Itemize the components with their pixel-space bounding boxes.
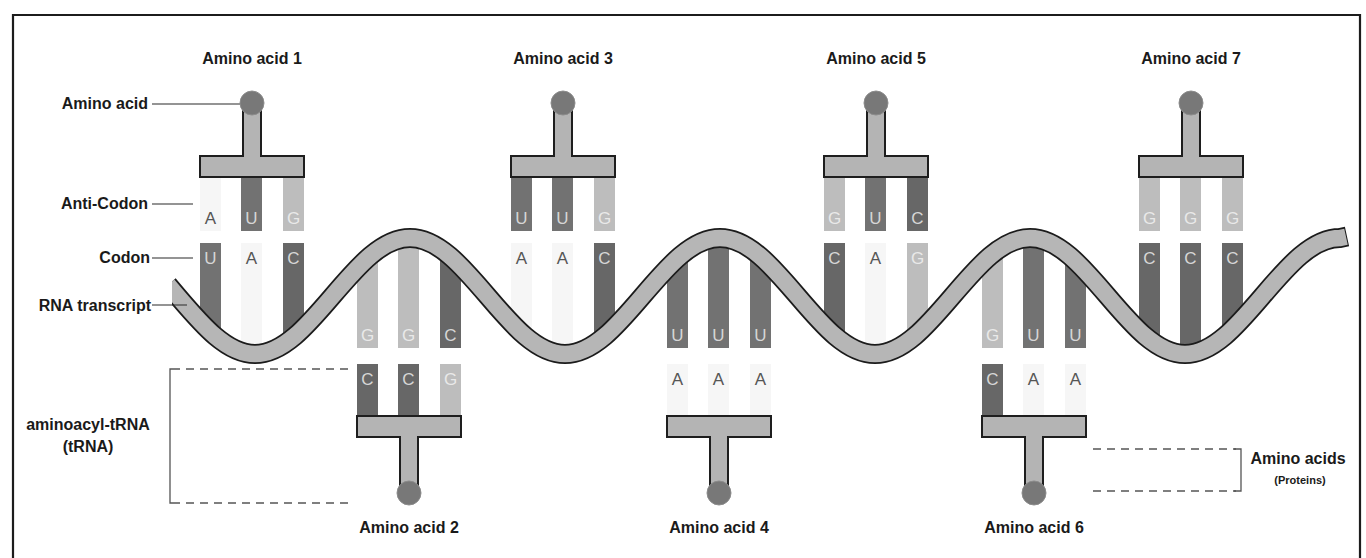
anticodon-letter: U bbox=[245, 209, 257, 228]
trna-body bbox=[824, 108, 928, 177]
codon-letter: G bbox=[911, 249, 924, 268]
amino-acid-ball bbox=[397, 481, 421, 505]
anticodon-letter: U bbox=[869, 209, 881, 228]
trna-body bbox=[982, 416, 1086, 488]
codon-letter: U bbox=[712, 326, 724, 345]
legend-aminoacyl-trna-label: aminoacyl-tRNA bbox=[26, 416, 150, 433]
trna-body bbox=[511, 108, 615, 177]
trna-group-1: Amino acid 1 A U G U A C bbox=[200, 50, 304, 268]
anticodon-letter: U bbox=[556, 209, 568, 228]
amino-acids-label: Amino acids bbox=[1250, 450, 1345, 467]
trna-group-7: Amino acid 7 G G G C C C bbox=[1139, 50, 1243, 268]
anticodon-letter: G bbox=[828, 209, 841, 228]
anticodon-letter: G bbox=[1226, 209, 1239, 228]
amino-acids-bracket bbox=[1093, 449, 1241, 491]
codon-letter: U bbox=[1069, 326, 1081, 345]
codon-letter: C bbox=[444, 326, 456, 345]
amino-acid-ball bbox=[240, 91, 264, 115]
legend-trna-abbrev-label: (tRNA) bbox=[63, 438, 114, 455]
codon-letter: A bbox=[557, 249, 569, 268]
trna-body bbox=[1139, 108, 1243, 177]
amino-acid-ball bbox=[1022, 481, 1046, 505]
legend-codon: Codon bbox=[99, 249, 193, 266]
legend-anti-codon: Anti-Codon bbox=[61, 195, 193, 212]
trna-bracket bbox=[170, 369, 350, 503]
legend-rna-transcript-label: RNA transcript bbox=[39, 297, 152, 314]
anticodon-letter: G bbox=[287, 209, 300, 228]
legend-amino-acid-label: Amino acid bbox=[62, 95, 148, 112]
codon-letter: U bbox=[671, 326, 683, 345]
trna-group-2: G G C C C G Amino acid 2 bbox=[357, 326, 461, 536]
anticodon-letter: G bbox=[598, 209, 611, 228]
codon-letter: U bbox=[1027, 326, 1039, 345]
amino-acid-ball bbox=[864, 91, 888, 115]
anticodon-letter: C bbox=[361, 370, 373, 389]
amino-acid-ball bbox=[707, 481, 731, 505]
codon-letter: U bbox=[754, 326, 766, 345]
legend-codon-label: Codon bbox=[99, 249, 150, 266]
amino-acid-ball bbox=[1179, 91, 1203, 115]
trna-group-4: U U U A A A Amino acid 4 bbox=[667, 326, 771, 536]
amino-acid-label: Amino acid 1 bbox=[202, 50, 302, 67]
trna-body bbox=[200, 108, 304, 177]
amino-acid-label: Amino acid 2 bbox=[359, 519, 459, 536]
codon-letter: U bbox=[204, 249, 216, 268]
codon-letter: A bbox=[246, 249, 258, 268]
anticodon-letter: A bbox=[1028, 370, 1040, 389]
trna-group-5: Amino acid 5 G U C C A G bbox=[824, 50, 928, 268]
anticodon-letter: U bbox=[515, 209, 527, 228]
trna-group-3: Amino acid 3 U U G A A C bbox=[511, 50, 615, 268]
codon-letter: C bbox=[828, 249, 840, 268]
amino-acid-label: Amino acid 6 bbox=[984, 519, 1084, 536]
anticodon-letter: A bbox=[755, 370, 767, 389]
diagram-canvas: Amino acid Anti-Codon Codon RNA transcri… bbox=[0, 0, 1366, 558]
amino-acid-ball bbox=[551, 91, 575, 115]
anticodon-letter: A bbox=[1070, 370, 1082, 389]
anticodon-letter: G bbox=[1184, 209, 1197, 228]
codon-letter: G bbox=[986, 326, 999, 345]
codon-letter: A bbox=[870, 249, 882, 268]
codon-letter: G bbox=[361, 326, 374, 345]
amino-acid-label: Amino acid 4 bbox=[669, 519, 769, 536]
anticodon-letter: A bbox=[672, 370, 684, 389]
anticodon-letter: C bbox=[402, 370, 414, 389]
proteins-label: (Proteins) bbox=[1274, 474, 1326, 486]
codon-letter: C bbox=[598, 249, 610, 268]
legend-anti-codon-label: Anti-Codon bbox=[61, 195, 148, 212]
amino-acid-label: Amino acid 5 bbox=[826, 50, 926, 67]
anticodon-letter: A bbox=[713, 370, 725, 389]
anticodon-letter: G bbox=[1143, 209, 1156, 228]
codon-letter: A bbox=[516, 249, 528, 268]
codon-letter: C bbox=[287, 249, 299, 268]
amino-acid-label: Amino acid 7 bbox=[1141, 50, 1241, 67]
trna-body bbox=[667, 416, 771, 488]
amino-acid-label: Amino acid 3 bbox=[513, 50, 613, 67]
legend-amino-acid: Amino acid bbox=[62, 95, 250, 112]
codon-letter: G bbox=[402, 326, 415, 345]
anticodon-letter: C bbox=[986, 370, 998, 389]
trna-body bbox=[357, 416, 461, 488]
anticodon-letter: A bbox=[205, 209, 217, 228]
anticodon-letter: C bbox=[911, 209, 923, 228]
anticodon-letter: G bbox=[444, 370, 457, 389]
codon-letter: C bbox=[1143, 249, 1155, 268]
translation-diagram: Amino acid Anti-Codon Codon RNA transcri… bbox=[0, 0, 1366, 558]
codon-letter: C bbox=[1184, 249, 1196, 268]
codon-letter: C bbox=[1226, 249, 1238, 268]
trna-group-6: G U U C A A Amino acid 6 bbox=[982, 326, 1086, 536]
